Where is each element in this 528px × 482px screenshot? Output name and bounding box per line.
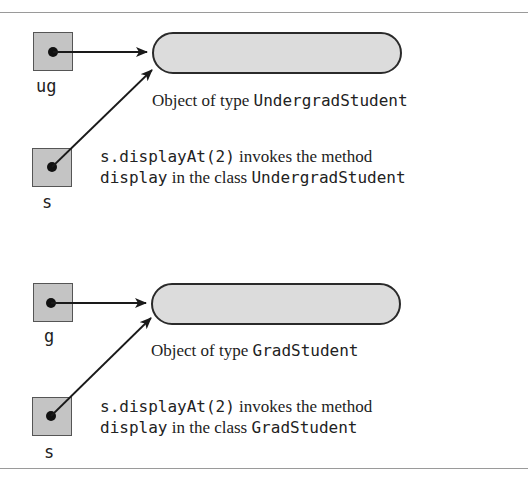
arrow-g-to-object	[46, 298, 146, 308]
arrow-s-to-object	[47, 70, 152, 172]
reference-arrows	[0, 0, 528, 482]
arrow-s-to-object	[46, 318, 151, 421]
arrow-ug-to-object	[48, 47, 147, 57]
